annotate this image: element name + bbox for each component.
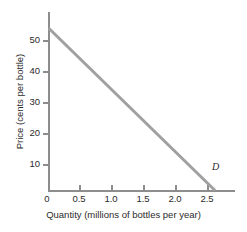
demand-curve-label: D bbox=[212, 161, 219, 172]
demand-curve-line bbox=[49, 28, 215, 190]
plot-area bbox=[0, 0, 247, 232]
demand-curve-chart: 50 40 30 20 10 0 0.5 1.0 1.5 2.0 2.5 Pri… bbox=[0, 0, 247, 232]
